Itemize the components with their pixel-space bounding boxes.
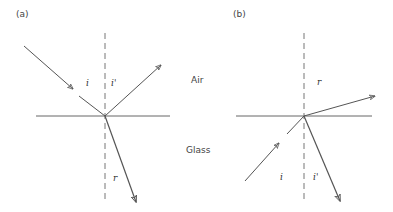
incident-ray-a-tail [79, 96, 105, 116]
angle-i-prime-label-a: i' [111, 78, 116, 88]
medium-air-label: Air [191, 76, 203, 85]
panel-a [24, 33, 170, 202]
refraction-diagram [0, 0, 393, 212]
incident-ray-b [245, 143, 279, 181]
panel-b [236, 33, 375, 201]
panel-a-label: (a) [16, 10, 29, 19]
reflected-ray-a [105, 65, 161, 116]
angle-i-prime-label-b: i' [313, 172, 318, 182]
angle-r-label-b: r [317, 77, 321, 87]
incident-ray-a [24, 46, 73, 89]
refracted-ray-b [304, 96, 375, 116]
reflected-ray-b [304, 116, 340, 201]
panel-b-label: (b) [233, 10, 246, 19]
angle-i-label-b: i [280, 172, 283, 182]
angle-r-label-a: r [113, 173, 117, 183]
refracted-ray-a [105, 116, 136, 202]
medium-glass-label: Glass [186, 146, 210, 155]
angle-i-label-a: i [86, 78, 89, 88]
incident-ray-b-tail [287, 116, 304, 134]
